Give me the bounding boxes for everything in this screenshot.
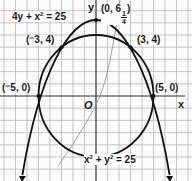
point-neg5-0: [37, 94, 41, 98]
arrow-right-down-icon: [166, 176, 173, 181]
label-point-3-4: (3, 4): [137, 35, 160, 45]
label-point-5-0: (5, 0): [155, 83, 178, 93]
label-vertex: (0, 614): [101, 4, 130, 25]
x-axis-label: x: [178, 99, 184, 110]
y-axis-label: y: [88, 2, 94, 13]
circle-equation: x2 + y2 = 25: [84, 154, 136, 165]
label-point-neg3-4: (⁻3, 4): [26, 35, 54, 45]
point-neg3-4: [60, 45, 64, 49]
graph-figure: y x O 4y + x2 = 25 x2 + y2 = 25 (⁻3, 4) …: [0, 0, 192, 181]
point-5-0: [152, 94, 156, 98]
point-vertex: [94, 18, 98, 22]
arrow-left-down-icon: [19, 176, 26, 181]
origin-label: O: [84, 100, 93, 111]
parabola-equation: 4y + x2 = 25: [12, 11, 66, 22]
point-3-4: [129, 45, 133, 49]
label-point-neg5-0: (⁻5, 0): [2, 83, 30, 93]
